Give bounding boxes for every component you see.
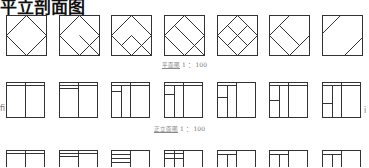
drawing-canvas (0, 0, 369, 167)
plan-diagram-3 (112, 16, 152, 56)
plan-diagram-4 (165, 16, 205, 56)
section-diagram-5 (218, 151, 256, 168)
elevation-scale-label: 正立面图 1 ： 100 (154, 124, 205, 133)
plan-row (7, 16, 363, 56)
plan-label-scale: 1 ： 100 (182, 61, 207, 68)
plan-label-name: 平面图 (162, 62, 180, 68)
left-edge-glyph: fi (0, 104, 5, 113)
plan-diagram-7 (323, 16, 363, 56)
plan-diagram-5 (218, 16, 258, 56)
section-diagram-4 (165, 151, 203, 168)
elevation-diagram-2 (60, 83, 98, 118)
elevation-diagram-5 (218, 83, 256, 118)
right-edge-glyph: i (364, 106, 366, 115)
section-diagram-2 (60, 151, 98, 168)
plan-scale-label: 平面图 1 ： 100 (162, 60, 207, 69)
elevation-label-scale: 1 ： 100 (180, 125, 205, 132)
section-diagram-7 (323, 151, 361, 168)
elevation-diagram-1 (7, 83, 45, 118)
plan-diagram-6 (270, 16, 310, 56)
plan-diagram-2 (60, 16, 100, 56)
section-diagram-3 (112, 151, 150, 168)
section-diagram-6 (270, 151, 308, 168)
section-diagram-1 (7, 151, 45, 168)
elevation-label-name: 正立面图 (154, 126, 178, 132)
elevation-row (7, 83, 361, 118)
section-row (7, 151, 361, 168)
plan-diagram-1 (7, 16, 47, 56)
elevation-diagram-4 (165, 83, 203, 118)
elevation-diagram-6 (270, 83, 308, 118)
elevation-diagram-7 (323, 83, 361, 118)
elevation-diagram-3 (112, 83, 150, 118)
